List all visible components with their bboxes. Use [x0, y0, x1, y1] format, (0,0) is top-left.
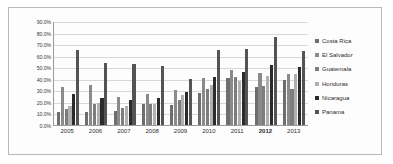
bar-costa-rica-2013 — [283, 80, 286, 125]
legend-swatch-icon — [315, 82, 319, 86]
bar-costa-rica-2006 — [85, 112, 88, 125]
legend-item-el-salvador: El Salvador — [315, 52, 381, 58]
bar-groups — [54, 22, 308, 125]
bar-group-2006 — [82, 22, 110, 125]
bar-group-2007 — [110, 22, 138, 125]
chart-legend: Costa RicaEl SalvadorGuatemalaHondurasNi… — [315, 38, 381, 123]
x-tick-label-2013: 2013 — [280, 128, 308, 142]
bar-guatemala-2013 — [290, 89, 293, 125]
legend-label: Honduras — [322, 81, 348, 87]
legend-swatch-icon — [315, 39, 319, 43]
legend-swatch-icon — [315, 96, 319, 100]
legend-label: Nicaragua — [322, 95, 349, 101]
legend-label: El Salvador — [322, 52, 353, 58]
x-tick-label-2012: 2012 — [251, 128, 279, 142]
bar-nicaragua-2010 — [213, 77, 216, 125]
y-tick-label: 0.0% — [17, 123, 51, 129]
legend-label: Guatemala — [322, 66, 351, 72]
bar-honduras-2010 — [210, 85, 213, 125]
x-tick-label-2008: 2008 — [138, 128, 166, 142]
bar-guatemala-2009 — [178, 100, 181, 125]
bar-group-2009 — [167, 22, 195, 125]
legend-label: Panama — [322, 109, 344, 115]
bar-nicaragua-2011 — [242, 72, 245, 125]
bar-panama-2011 — [245, 49, 248, 125]
bar-el-salvador-2006 — [89, 85, 92, 125]
bar-el-salvador-2011 — [230, 70, 233, 125]
x-tick-label-2009: 2009 — [166, 128, 194, 142]
x-tick-label-2006: 2006 — [81, 128, 109, 142]
bar-panama-2012 — [274, 37, 277, 126]
legend-swatch-icon — [315, 67, 319, 71]
bar-costa-rica-2011 — [226, 78, 229, 125]
bar-nicaragua-2013 — [298, 67, 301, 125]
bar-costa-rica-2005 — [57, 112, 60, 125]
bar-guatemala-2011 — [234, 77, 237, 125]
bar-honduras-2013 — [294, 74, 297, 125]
y-tick-label: 80.0% — [17, 31, 51, 37]
bar-panama-2005 — [76, 50, 79, 125]
bar-group-2011 — [223, 22, 251, 125]
bar-nicaragua-2005 — [72, 94, 75, 125]
x-tick-label-2005: 2005 — [53, 128, 81, 142]
bar-honduras-2008 — [153, 104, 156, 125]
bar-group-2008 — [139, 22, 167, 125]
x-tick-label-2007: 2007 — [110, 128, 138, 142]
bar-costa-rica-2009 — [170, 105, 173, 125]
y-tick-label: 90.0% — [17, 19, 51, 25]
bar-el-salvador-2008 — [146, 94, 149, 125]
bar-costa-rica-2008 — [142, 104, 145, 125]
y-tick-label: 70.0% — [17, 42, 51, 48]
bar-panama-2009 — [189, 79, 192, 125]
bar-group-2013 — [280, 22, 308, 125]
bar-costa-rica-2012 — [255, 87, 258, 125]
legend-item-panama: Panama — [315, 109, 381, 115]
bar-honduras-2006 — [97, 103, 100, 125]
bar-group-2010 — [195, 22, 223, 125]
y-tick-label: 10.0% — [17, 111, 51, 117]
y-tick-label: 20.0% — [17, 100, 51, 106]
legend-item-nicaragua: Nicaragua — [315, 95, 381, 101]
bar-el-salvador-2013 — [287, 74, 290, 125]
bar-nicaragua-2009 — [185, 92, 188, 125]
bar-costa-rica-2010 — [198, 93, 201, 125]
y-axis: 90.0%80.0%70.0%60.0%50.0%40.0%30.0%20.0%… — [13, 8, 51, 156]
bar-honduras-2009 — [181, 95, 184, 125]
legend-item-honduras: Honduras — [315, 81, 381, 87]
bar-panama-2008 — [161, 66, 164, 125]
bar-el-salvador-2007 — [117, 97, 120, 125]
bar-group-2012 — [252, 22, 280, 125]
bar-nicaragua-2006 — [100, 98, 103, 125]
y-tick-label: 50.0% — [17, 65, 51, 71]
bar-honduras-2012 — [266, 76, 269, 125]
plot-area — [53, 22, 308, 126]
bar-chart: 90.0%80.0%70.0%60.0%50.0%40.0%30.0%20.0%… — [9, 8, 383, 156]
bar-nicaragua-2007 — [129, 100, 132, 125]
bar-el-salvador-2012 — [258, 73, 261, 125]
legend-label: Costa Rica — [322, 38, 351, 44]
legend-item-guatemala: Guatemala — [315, 66, 381, 72]
bar-guatemala-2005 — [65, 109, 68, 125]
bar-honduras-2011 — [238, 81, 241, 125]
bar-honduras-2007 — [125, 106, 128, 125]
y-tick-label: 60.0% — [17, 54, 51, 60]
bar-el-salvador-2009 — [174, 90, 177, 125]
legend-swatch-icon — [315, 53, 319, 57]
chart-frame: 90.0%80.0%70.0%60.0%50.0%40.0%30.0%20.0%… — [8, 7, 382, 155]
legend-item-costa-rica: Costa Rica — [315, 38, 381, 44]
x-tick-label-2011: 2011 — [223, 128, 251, 142]
x-axis: 200520062007200820092010201120122013 — [53, 128, 308, 142]
bar-honduras-2005 — [68, 106, 71, 125]
bar-panama-2010 — [217, 50, 220, 125]
bar-panama-2006 — [104, 63, 107, 125]
bar-guatemala-2006 — [93, 104, 96, 125]
bar-group-2005 — [54, 22, 82, 125]
bar-costa-rica-2007 — [114, 111, 117, 125]
bar-nicaragua-2008 — [157, 98, 160, 125]
bar-el-salvador-2010 — [202, 78, 205, 125]
legend-swatch-icon — [315, 110, 319, 114]
bar-nicaragua-2012 — [270, 65, 273, 125]
y-tick-label: 30.0% — [17, 88, 51, 94]
x-tick-label-2010: 2010 — [195, 128, 223, 142]
bar-panama-2007 — [132, 64, 135, 125]
